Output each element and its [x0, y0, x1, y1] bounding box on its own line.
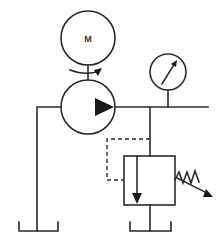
reservoir-left-icon — [19, 222, 58, 231]
relief-valve-body — [124, 156, 175, 205]
hydraulic-circuit-diagram: M — [0, 0, 224, 252]
spring-adjust-arrowhead-icon — [203, 189, 213, 197]
drive-shaft — [70, 65, 102, 80]
hydraulic-pump — [61, 80, 115, 134]
adjustable-spring — [175, 171, 213, 197]
pressure-relief-valve — [124, 156, 175, 205]
suction-pipe — [37, 107, 61, 231]
pump-flow-triangle-icon — [95, 98, 114, 116]
motor-label: M — [84, 34, 92, 44]
spring-zigzag-icon — [175, 171, 199, 183]
tank-left — [19, 222, 58, 231]
pilot-line — [107, 139, 150, 180]
pressure-gauge — [150, 54, 186, 107]
pilot-dashed-line — [107, 139, 150, 180]
suction-line — [37, 107, 61, 231]
relief-flow-arrowhead-icon — [132, 193, 142, 204]
gauge-circle — [150, 54, 186, 90]
gauge-needle — [162, 63, 175, 84]
electric-motor: M — [61, 11, 115, 65]
